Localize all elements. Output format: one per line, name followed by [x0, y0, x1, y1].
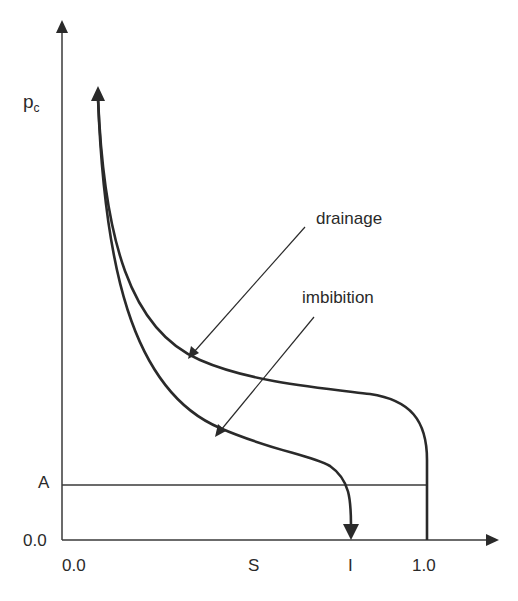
drainage-curve	[98, 98, 427, 540]
y-axis-label: pc	[23, 92, 40, 111]
drainage-label: drainage	[316, 210, 382, 227]
y-axis-label-sub: c	[34, 101, 40, 115]
imbibition-end-arrowhead	[343, 524, 359, 540]
y-tick-zero: 0.0	[23, 532, 47, 549]
imbibition-leader	[215, 317, 314, 437]
y-tick-a: A	[38, 474, 49, 491]
x-axis	[62, 534, 499, 546]
capillary-pressure-diagram	[0, 0, 518, 601]
x-tick-s: S	[248, 557, 259, 574]
x-tick-one: 1.0	[412, 557, 436, 574]
imbibition-label: imbibition	[302, 289, 374, 306]
imbibition-curve	[98, 98, 351, 526]
drainage-leader	[188, 227, 305, 359]
curve-start-arrowhead	[91, 86, 105, 101]
y-axis-label-main: p	[23, 91, 34, 112]
x-tick-zero: 0.0	[62, 557, 86, 574]
y-axis	[56, 20, 68, 540]
x-tick-i: I	[348, 557, 353, 574]
